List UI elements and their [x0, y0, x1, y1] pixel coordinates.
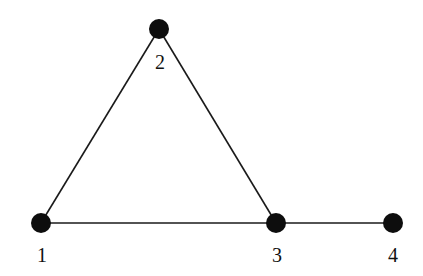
- edge-2-3: [159, 29, 276, 223]
- edges: [41, 29, 393, 223]
- node-label-3: 3: [272, 244, 282, 266]
- node-4: [383, 213, 403, 233]
- node-3: [266, 213, 286, 233]
- node-1: [31, 213, 51, 233]
- graph-diagram: 1234: [0, 0, 423, 276]
- node-labels: 1234: [37, 51, 398, 266]
- node-2: [149, 19, 169, 39]
- edge-1-2: [41, 29, 159, 223]
- node-label-2: 2: [155, 51, 165, 73]
- node-label-1: 1: [37, 244, 47, 266]
- node-label-4: 4: [388, 244, 398, 266]
